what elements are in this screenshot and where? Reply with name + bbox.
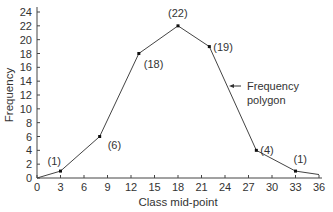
frequency-polygon-annotation: Frequency polygon xyxy=(229,80,299,106)
y-tick-label: 2 xyxy=(26,158,32,170)
x-tick-label: 33 xyxy=(289,181,301,193)
axes xyxy=(37,7,322,178)
x-tick-label: 36 xyxy=(313,181,325,193)
x-tick-label: 12 xyxy=(125,181,137,193)
point-label: (22) xyxy=(168,7,188,19)
data-point xyxy=(255,149,258,152)
y-tick-label: 8 xyxy=(26,117,32,129)
x-tick-label: 30 xyxy=(266,181,278,193)
y-tick-label: 0 xyxy=(26,172,32,184)
point-label: (6) xyxy=(108,139,121,151)
y-tick-label: 10 xyxy=(20,103,32,115)
y-tick-label: 24 xyxy=(20,6,32,18)
data-point xyxy=(294,170,297,173)
x-tick-label: 0 xyxy=(34,181,40,193)
annotation-line1: Frequency xyxy=(247,80,299,92)
x-tick-label: 15 xyxy=(148,181,160,193)
y-tick-label: 16 xyxy=(20,61,32,73)
point-label: (1) xyxy=(294,153,307,165)
y-tick-label: 12 xyxy=(20,89,32,101)
annotation-line2: polygon xyxy=(247,94,286,106)
arrowhead-icon xyxy=(229,84,234,88)
point-label: (4) xyxy=(260,144,273,156)
x-tick-label: 24 xyxy=(219,181,231,193)
x-tick-label: 21 xyxy=(195,181,207,193)
point-label: (1) xyxy=(48,155,61,167)
data-point xyxy=(59,170,62,173)
y-tick-label: 14 xyxy=(20,75,32,87)
point-label: (18) xyxy=(144,58,164,70)
y-tick-label: 4 xyxy=(26,144,32,156)
x-tick-label: 27 xyxy=(242,181,254,193)
y-tick-label: 18 xyxy=(20,48,32,60)
x-tick-label: 3 xyxy=(57,181,63,193)
y-tick-label: 6 xyxy=(26,131,32,143)
x-tick-label: 9 xyxy=(104,181,110,193)
point-label: (19) xyxy=(213,41,233,53)
data-point xyxy=(98,135,101,138)
x-tick-label: 18 xyxy=(172,181,184,193)
data-point xyxy=(137,52,140,55)
frequency-polygon-chart: 0369121518212427303336024681012141618202… xyxy=(0,0,333,212)
y-tick-label: 22 xyxy=(20,20,32,32)
x-tick-label: 6 xyxy=(81,181,87,193)
data-point xyxy=(208,45,211,48)
x-axis-title: Class mid-point xyxy=(138,196,218,208)
y-tick-label: 20 xyxy=(20,34,32,46)
y-axis-title: Frequency xyxy=(3,68,15,123)
data-point xyxy=(177,24,180,27)
